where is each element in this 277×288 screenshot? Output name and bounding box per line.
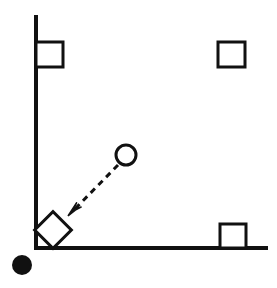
diagram-svg bbox=[0, 0, 277, 288]
square-bottom-right bbox=[220, 224, 246, 248]
circle-filled bbox=[12, 255, 32, 275]
square-top-right bbox=[218, 42, 245, 67]
circle-open bbox=[116, 145, 136, 165]
diagram-canvas bbox=[0, 0, 277, 288]
square-top-left bbox=[36, 42, 63, 67]
